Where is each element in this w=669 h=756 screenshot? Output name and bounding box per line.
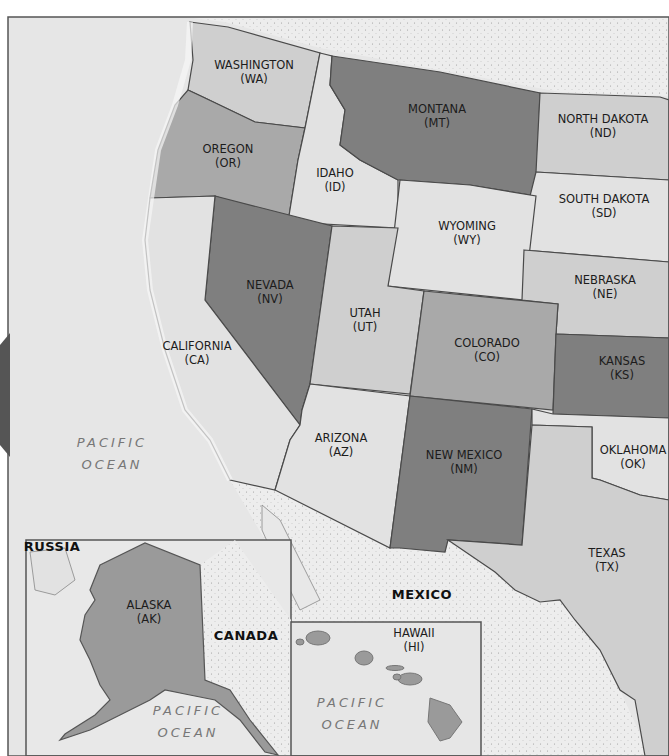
state-label-arizona: ARIZONA(AZ) bbox=[315, 431, 368, 459]
state-label-idaho: IDAHO(ID) bbox=[316, 166, 354, 194]
state-label-oregon: OREGON(OR) bbox=[203, 142, 254, 170]
state-label-california: CALIFORNIA(CA) bbox=[162, 339, 231, 367]
state-label-south-dakota: SOUTH DAKOTA(SD) bbox=[559, 192, 650, 220]
state-label-nebraska: NEBRASKA(NE) bbox=[574, 273, 636, 301]
country-label-mexico: MEXICO bbox=[392, 587, 452, 602]
state-label-oklahoma: OKLAHOMA(OK) bbox=[600, 443, 667, 471]
country-label-canada: CANADA bbox=[214, 628, 278, 643]
state-label-washington: WASHINGTON(WA) bbox=[214, 58, 294, 86]
country-label-russia: RUSSIA bbox=[24, 539, 81, 554]
ocean-label: PACIFICOCEAN bbox=[317, 692, 387, 736]
side-tab-marker bbox=[0, 333, 10, 457]
state-label-north-dakota: NORTH DAKOTA(ND) bbox=[558, 112, 649, 140]
state-label-utah: UTAH(UT) bbox=[349, 306, 380, 334]
state-label-nevada: NEVADA(NV) bbox=[246, 278, 293, 306]
state-label-new-mexico: NEW MEXICO(NM) bbox=[426, 448, 502, 476]
ocean-label: PACIFICOCEAN bbox=[153, 700, 223, 744]
state-label-montana: MONTANA(MT) bbox=[408, 102, 466, 130]
state-label-texas: TEXAS(TX) bbox=[588, 546, 625, 574]
state-label-colorado: COLORADO(CO) bbox=[454, 336, 519, 364]
state-label-alaska: ALASKA(AK) bbox=[127, 598, 172, 626]
state-label-hawaii: HAWAII(HI) bbox=[393, 626, 434, 654]
state-label-wyoming: WYOMING(WY) bbox=[438, 219, 496, 247]
state-label-kansas: KANSAS(KS) bbox=[599, 354, 646, 382]
ocean-label: PACIFICOCEAN bbox=[77, 432, 147, 476]
